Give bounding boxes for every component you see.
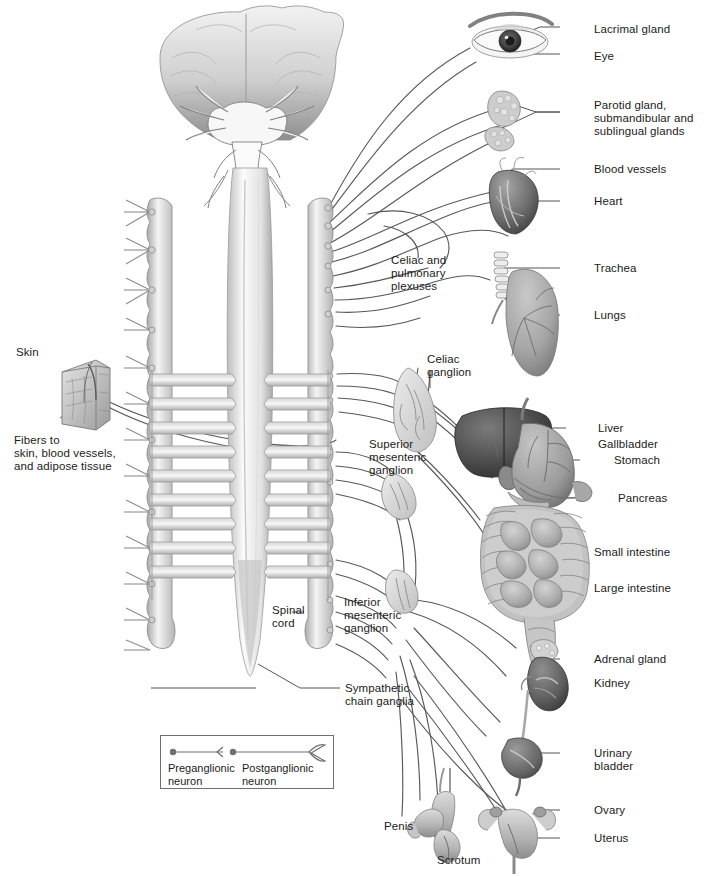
label-uterus: Uterus	[594, 832, 628, 845]
eye-illustration	[470, 14, 552, 58]
trachea-and-lungs-illustration	[492, 252, 558, 376]
label-penis: Penis	[384, 820, 413, 833]
label-celiac-pulmonary-plexuses: Celiac and pulmonary plexuses	[391, 254, 446, 294]
legend-label-preganglionic-neuron: Preganglionic neuron	[168, 762, 235, 787]
label-gallbladder: Gallbladder	[598, 438, 658, 451]
legend-box: Preganglionic neuron Postganglionic neur…	[160, 735, 334, 789]
kidney-and-adrenal-illustration	[521, 640, 568, 742]
label-trachea: Trachea	[594, 262, 636, 275]
label-celiac-ganglion: Celiac ganglion	[427, 353, 471, 379]
label-liver: Liver	[598, 422, 623, 435]
label-skin: Skin	[16, 346, 39, 359]
urinary-bladder-illustration	[502, 738, 543, 796]
label-lungs: Lungs	[594, 309, 626, 322]
label-eye: Eye	[594, 50, 614, 63]
label-stomach: Stomach	[614, 454, 660, 467]
label-inferior-mesenteric-ganglion: Inferior mesenteric ganglion	[344, 596, 401, 636]
label-heart: Heart	[594, 195, 623, 208]
label-superior-mesenteric-ganglion: Superior mesenteric ganglion	[369, 438, 426, 478]
legend-label-postganglionic-neuron: Postganglionic neuron	[242, 762, 314, 787]
spinal-cord-illustration	[227, 168, 273, 676]
label-large-intestine: Large intestine	[594, 582, 671, 595]
label-parotid-glands: Parotid gland, submandibular and subling…	[594, 99, 694, 139]
label-urinary-bladder: Urinary bladder	[594, 747, 633, 773]
prevertebral-ganglia	[382, 368, 437, 613]
label-kidney: Kidney	[594, 677, 630, 690]
male-genitalia-illustration	[407, 768, 460, 862]
figure-canvas: Lacrimal gland Eye Parotid gland, subman…	[0, 0, 723, 877]
female-reproductive-illustration	[478, 807, 555, 874]
skin-illustration	[62, 360, 110, 430]
salivary-glands-illustration	[485, 91, 520, 151]
label-sympathetic-chain-ganglia: Sympathetic chain ganglia	[345, 682, 414, 708]
label-ovary: Ovary	[594, 804, 625, 817]
label-lacrimal-gland: Lacrimal gland	[594, 23, 670, 36]
label-pancreas: Pancreas	[618, 492, 667, 505]
label-adrenal-gland: Adrenal gland	[594, 653, 666, 666]
label-scrotum: Scrotum	[437, 854, 481, 867]
label-spinal-cord: Spinal cord	[272, 604, 305, 630]
label-small-intestine: Small intestine	[594, 546, 670, 559]
label-blood-vessels: Blood vessels	[594, 163, 666, 176]
label-fibers-to: Fibers to skin, blood vessels, and adipo…	[14, 434, 116, 474]
